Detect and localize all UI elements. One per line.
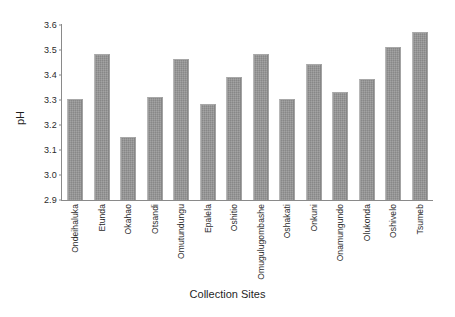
x-tick-label: Onkuni [310, 204, 319, 232]
y-tick-label: 3.4 [44, 70, 57, 80]
bar[interactable] [147, 97, 162, 201]
x-tick-label: Olukonda [363, 204, 372, 241]
bar-slot [380, 25, 407, 200]
x-tick-label: Oshivelo [389, 204, 398, 238]
x-tick-label: Epalela [204, 204, 213, 233]
bar[interactable] [412, 32, 427, 201]
bar[interactable] [121, 137, 136, 201]
bar-slot [142, 25, 169, 200]
bar-slot [274, 25, 301, 200]
bar-slot [327, 25, 354, 200]
bar-slot [115, 25, 142, 200]
bar[interactable] [68, 99, 83, 200]
bar[interactable] [227, 77, 242, 201]
bar-slot [248, 25, 275, 200]
bar-slot [407, 25, 434, 200]
bar-slot [62, 25, 89, 200]
bar-slot [195, 25, 222, 200]
y-tick-label: 3.1 [44, 145, 57, 155]
bar-slot [221, 25, 248, 200]
x-tick-label: Okahao [124, 204, 133, 234]
y-tick-label: 3.3 [44, 95, 57, 105]
x-tick-label: Onamungundo [336, 204, 345, 261]
x-tick-label: Ondeihaluka [71, 204, 80, 253]
y-axis-title: pH [14, 111, 26, 125]
y-tick-label: 3.2 [44, 120, 57, 130]
x-tick-label: Oshitio [230, 204, 239, 231]
bar-slot [168, 25, 195, 200]
x-tick-label: Etunda [98, 204, 107, 232]
ph-bar-chart-figure: 3.63.53.43.33.23.13.02.9 OndeihalukaEtun… [0, 0, 455, 317]
plot-area: 3.63.53.43.33.23.13.02.9 [62, 25, 433, 200]
y-tick-label: 2.9 [44, 195, 57, 205]
y-tick-label: 3.6 [44, 20, 57, 30]
bar[interactable] [386, 47, 401, 201]
x-tick-label: Oshakati [283, 204, 292, 238]
x-tick-label: Omutundungu [177, 204, 186, 259]
bar[interactable] [200, 104, 215, 200]
bar[interactable] [280, 99, 295, 200]
bar-slot [354, 25, 381, 200]
bar-slot [89, 25, 116, 200]
y-tick-label: 3.5 [44, 45, 57, 55]
bar-series [62, 25, 433, 200]
bar[interactable] [253, 54, 268, 200]
bar[interactable] [306, 64, 321, 200]
bar[interactable] [333, 92, 348, 201]
x-axis-title: Collection Sites [0, 288, 455, 300]
bar[interactable] [174, 59, 189, 200]
bar[interactable] [359, 79, 374, 200]
y-tick-label: 3.0 [44, 170, 57, 180]
x-tick-label: Omugulugombashe [257, 204, 266, 280]
bar-slot [301, 25, 328, 200]
x-axis-line [61, 200, 433, 201]
bar[interactable] [94, 54, 109, 200]
x-tick-label: Otsandi [151, 204, 160, 234]
x-tick-label: Tsumeb [416, 204, 425, 234]
